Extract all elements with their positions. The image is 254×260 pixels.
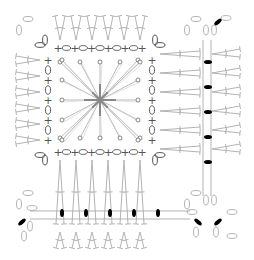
sc-symbol: + — [53, 42, 62, 55]
dc-bar — [28, 76, 29, 81]
dc-top — [132, 15, 138, 16]
sc-symbol: + — [137, 146, 146, 159]
join-chain — [214, 227, 219, 237]
dc-top — [16, 101, 17, 107]
outer-corner-chain — [191, 191, 201, 196]
outer-corner-chain — [185, 25, 190, 35]
dc-top — [240, 111, 241, 117]
dc-bar — [226, 72, 227, 77]
slip-stitch — [204, 160, 212, 164]
dc-top — [239, 65, 240, 71]
sc-symbol: + — [147, 74, 156, 87]
dc-bar — [108, 27, 113, 28]
dc-bar — [28, 140, 29, 145]
dc-bar — [28, 60, 29, 65]
chain-symbol — [45, 86, 50, 94]
dc-top — [16, 69, 17, 75]
ring-point — [118, 136, 122, 140]
slip-stitch — [108, 209, 112, 217]
sc-symbol: + — [121, 42, 130, 55]
dc-bar — [55, 27, 60, 28]
dc-bar — [87, 27, 92, 28]
dc-top — [126, 15, 132, 16]
dc-top — [116, 15, 122, 16]
ring-point — [136, 98, 140, 102]
dc-top — [239, 46, 240, 52]
sc-symbol: + — [147, 54, 156, 67]
dc-top — [68, 15, 74, 16]
sc-symbol: + — [53, 146, 62, 159]
spoke-loop — [103, 102, 140, 122]
dc-top — [240, 130, 241, 136]
dc-top — [240, 149, 241, 155]
slip-stitch — [132, 209, 136, 217]
sc-symbol: + — [43, 134, 52, 147]
corner-slip-stitch — [193, 218, 202, 227]
dc-bar — [92, 27, 97, 28]
join-chain — [187, 210, 197, 215]
ring-point — [60, 78, 64, 82]
ring-point — [60, 58, 64, 62]
chain-symbol — [45, 106, 50, 114]
dc-bar — [140, 27, 145, 28]
crochet-chart: ++++++++++++++++++++++ — [0, 0, 254, 260]
dc-bar — [226, 53, 227, 58]
dc-bar — [28, 92, 29, 97]
dc-bar — [124, 27, 129, 28]
join-chain — [227, 234, 237, 239]
dc-top — [16, 85, 17, 91]
slip-stitch — [60, 209, 64, 217]
ring-point — [60, 138, 64, 142]
dc-bar — [76, 27, 81, 28]
dc-top — [240, 73, 241, 79]
dc-top — [16, 77, 17, 83]
outer-corner-chain — [191, 17, 201, 22]
sc-symbol: + — [70, 146, 79, 159]
dc-top — [16, 117, 17, 123]
sc-symbol: + — [87, 42, 96, 55]
join-chain — [204, 25, 209, 35]
sc-symbol: + — [137, 42, 146, 55]
sc-symbol: + — [43, 74, 52, 87]
dc-bar — [71, 27, 76, 28]
dc-top — [16, 125, 17, 131]
ring-point — [136, 118, 140, 122]
dc-bar — [28, 124, 29, 129]
sc-symbol: + — [147, 94, 156, 107]
corner-chain — [35, 153, 45, 158]
chain-symbol — [149, 66, 154, 74]
outer-corner-chain — [23, 17, 33, 22]
dc-bar — [135, 27, 140, 28]
dc-bar — [226, 148, 227, 153]
outer-corner-chain — [17, 25, 22, 35]
corner-chain — [35, 43, 45, 48]
join-chain — [212, 25, 217, 35]
dc-top — [16, 53, 17, 59]
join-chain — [194, 227, 199, 237]
spoke-loop — [101, 103, 122, 140]
dc-bar — [140, 239, 145, 240]
sc-symbol: + — [104, 146, 113, 159]
chain-symbol — [149, 106, 154, 114]
dc-top — [142, 15, 148, 16]
sc-symbol: + — [147, 134, 156, 147]
dc-top — [240, 54, 241, 60]
outer-corner-chain — [17, 199, 22, 209]
ring-point — [98, 60, 102, 64]
ring-point — [98, 136, 102, 140]
join-chain — [204, 195, 209, 205]
slip-stitch — [84, 209, 88, 217]
chain-symbol — [149, 86, 154, 94]
dc-bar — [226, 110, 227, 115]
ring-point — [118, 60, 122, 64]
dc-top — [16, 133, 17, 139]
dc-bar — [92, 239, 97, 240]
join-chain — [28, 221, 33, 231]
dc-top — [78, 15, 84, 16]
join-chain — [27, 206, 37, 211]
dc-bar — [226, 129, 227, 134]
sc-symbol: + — [70, 42, 79, 55]
dc-bar — [60, 27, 65, 28]
join-chain — [221, 16, 231, 21]
dc-top — [84, 15, 90, 16]
